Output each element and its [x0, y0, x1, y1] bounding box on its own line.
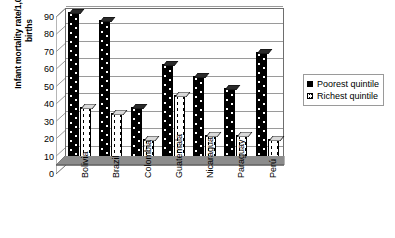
bar-top-cap — [175, 92, 184, 96]
bar-top-cap — [257, 49, 266, 53]
y-axis-title-line-1: Infant mortality rate/1,000 live — [13, 0, 23, 89]
x-tick-label: Nicaragua — [206, 137, 215, 178]
y-tick-label: 0 — [32, 170, 54, 179]
y-tick-label: 70 — [32, 47, 54, 56]
bar-top-cap — [112, 110, 121, 114]
x-tick-label: Guatemala — [175, 134, 184, 178]
bar-top-cap — [194, 73, 203, 77]
legend-label-poorest: Poorest quintile — [317, 79, 379, 89]
bar-poorest — [224, 88, 235, 165]
bar-group — [65, 8, 96, 165]
legend-item-richest: Richest quintile — [307, 90, 379, 102]
bar-poorest — [162, 64, 173, 165]
x-tick-label: Colombia — [144, 140, 153, 178]
bar-top-cap — [69, 9, 78, 13]
bar-top-cap — [225, 85, 234, 89]
gridline — [66, 6, 283, 7]
legend-item-poorest: Poorest quintile — [307, 78, 379, 90]
bar-top-cap — [206, 132, 215, 136]
legend-label-richest: Richest quintile — [317, 91, 378, 101]
x-tick-label: Paraguay — [237, 139, 246, 178]
y-axis-title: Infant mortality rate/1,000 live births — [13, 0, 34, 116]
y-tick-label: 10 — [32, 152, 54, 161]
bar-top-cap — [81, 104, 90, 108]
x-axis-tick-labels: BoliviaBrazilColombiaGuatemalaNicaraguaP… — [56, 176, 288, 236]
plot-area — [56, 8, 284, 174]
bar-top-cap — [237, 132, 246, 136]
y-tick-label: 30 — [32, 117, 54, 126]
y-tick-label: 90 — [32, 13, 54, 22]
y-tick-label: 40 — [32, 100, 54, 109]
x-tick-label: Bolivia — [81, 151, 90, 178]
y-axis-tick-labels: 0102030405060708090 — [32, 8, 54, 174]
x-tick-label: Perú — [269, 159, 278, 178]
y-tick-label: 60 — [32, 65, 54, 74]
chart-legend: Poorest quintile Richest quintile — [303, 74, 384, 106]
bar-poorest — [99, 20, 110, 165]
legend-swatch-poorest-icon — [307, 81, 313, 87]
x-tick-label: Brazil — [112, 155, 121, 178]
y-tick-label: 80 — [32, 30, 54, 39]
plot-floor — [56, 156, 284, 175]
bar-top-cap — [163, 61, 172, 65]
bar-top-cap — [132, 104, 141, 108]
chart-container: Infant mortality rate/1,000 live births … — [0, 0, 395, 238]
y-tick-label: 20 — [32, 135, 54, 144]
bar-group — [96, 8, 127, 165]
y-tick-label: 50 — [32, 82, 54, 91]
legend-swatch-richest-icon — [307, 93, 313, 99]
bar-top-cap — [100, 17, 109, 21]
bar-top-cap — [269, 136, 278, 140]
bar-group — [253, 8, 284, 165]
bar-poorest — [256, 52, 267, 165]
bar-poorest — [68, 12, 79, 166]
bar-poorest — [193, 76, 204, 165]
